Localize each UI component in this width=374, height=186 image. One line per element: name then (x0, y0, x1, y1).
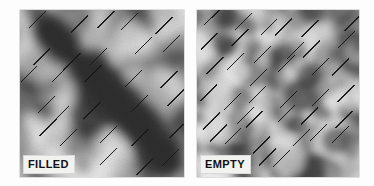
stimulus-figure: FILLED EMPTY (0, 0, 374, 186)
panel-empty-texture (197, 10, 359, 177)
panel-filled-texture (20, 10, 184, 177)
panel-empty-label: EMPTY (200, 155, 251, 174)
panel-filled-label: FILLED (23, 155, 75, 174)
panel-empty: EMPTY (197, 10, 359, 177)
panel-filled: FILLED (20, 10, 184, 177)
